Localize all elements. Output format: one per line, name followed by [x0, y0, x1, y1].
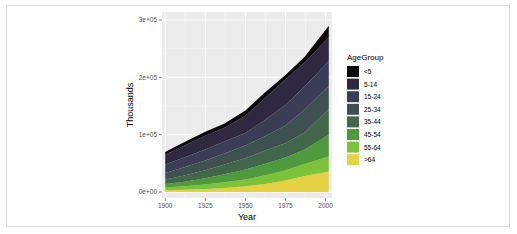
- y-tick-label: 0e+00: [139, 188, 158, 195]
- legend: AgeGroup <55-1415-2425-3435-4445-5455-64…: [347, 53, 384, 165]
- legend-swatch: [347, 142, 359, 153]
- x-tick-label: 1925: [198, 202, 213, 209]
- legend-label: 55-64: [364, 144, 381, 151]
- y-tick-label: 2e+05: [139, 74, 158, 81]
- legend-swatch: [347, 116, 359, 127]
- stacked-area-chart: 0e+001e+052e+053e+05 1900192519501975200…: [0, 0, 517, 234]
- legend-swatch: [347, 129, 359, 140]
- y-tick-label: 3e+05: [139, 16, 158, 23]
- y-axis-ticks: 0e+001e+052e+053e+05: [139, 16, 162, 195]
- legend-label: >64: [364, 156, 375, 163]
- legend-swatch: [347, 104, 359, 115]
- legend-swatch: [347, 154, 359, 165]
- x-tick-label: 1900: [158, 202, 173, 209]
- legend-label: <5: [364, 68, 372, 75]
- legend-label: 25-34: [364, 106, 381, 113]
- y-tick-label: 1e+05: [139, 131, 158, 138]
- x-tick-label: 2000: [318, 202, 333, 209]
- x-axis-label: Year: [238, 212, 256, 222]
- legend-swatch: [347, 79, 359, 90]
- legend-label: 5-14: [364, 81, 377, 88]
- legend-label: 15-24: [364, 93, 381, 100]
- x-tick-label: 1975: [278, 202, 293, 209]
- y-axis-label: Thousands: [125, 82, 135, 127]
- legend-title: AgeGroup: [347, 53, 384, 62]
- legend-swatch: [347, 91, 359, 102]
- x-axis-ticks: 19001925195019752000: [158, 198, 333, 209]
- legend-label: 45-54: [364, 131, 381, 138]
- x-tick-label: 1950: [238, 202, 253, 209]
- legend-label: 35-44: [364, 118, 381, 125]
- legend-swatch: [347, 66, 359, 77]
